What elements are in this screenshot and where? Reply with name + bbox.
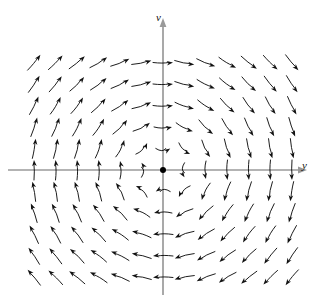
vertical-axis-label: v [156,12,161,23]
horizontal-axis-label: y [302,160,307,171]
origin-marker [160,167,166,173]
figure-background [0,0,320,303]
direction-field-figure: v y [0,0,320,303]
vector-field-canvas [0,0,320,303]
